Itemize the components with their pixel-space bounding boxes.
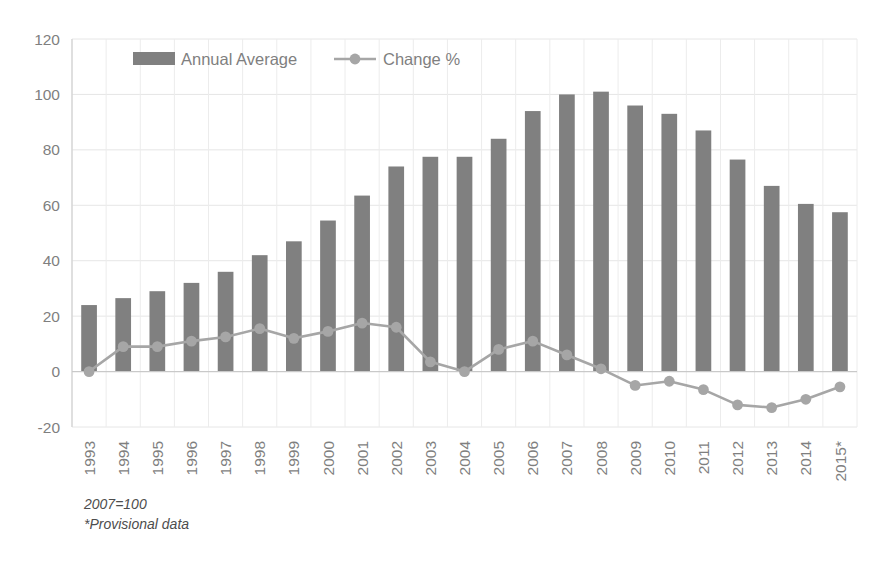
legend-marker-circle-icon bbox=[350, 54, 361, 65]
bar-1999 bbox=[286, 241, 302, 371]
y-axis-tick-label: 100 bbox=[34, 86, 60, 103]
y-axis-tick-label: 80 bbox=[43, 141, 61, 158]
data-point-2006 bbox=[527, 336, 538, 347]
x-axis-tick-labels: 1993199419951996199719981999200020012002… bbox=[81, 441, 849, 482]
data-point-2000 bbox=[323, 326, 334, 337]
x-axis-tick-label: 2009 bbox=[627, 441, 644, 475]
x-axis-tick-label: 1999 bbox=[285, 441, 302, 475]
legend-bar-swatch-icon bbox=[133, 52, 175, 65]
x-axis-tick-label: 2002 bbox=[388, 441, 405, 475]
x-axis-tick-label: 2006 bbox=[524, 441, 541, 475]
bar-2011 bbox=[696, 130, 712, 371]
data-point-1994 bbox=[118, 341, 129, 352]
x-axis-tick-label: 1997 bbox=[217, 441, 234, 475]
data-point-1998 bbox=[254, 323, 265, 334]
footnote-base-note: 2007=100 bbox=[83, 496, 147, 512]
y-axis-tick-label: 60 bbox=[43, 197, 61, 214]
x-axis-tick-label: 2010 bbox=[661, 441, 678, 476]
y-axis-tick-label: -20 bbox=[38, 419, 61, 436]
x-axis-tick-label: 1995 bbox=[149, 441, 166, 475]
x-axis-tick-label: 2005 bbox=[490, 441, 507, 475]
data-point-1996 bbox=[186, 336, 197, 347]
x-axis-tick-label: 1993 bbox=[81, 441, 98, 475]
bar-2006 bbox=[525, 111, 541, 372]
data-point-2015star bbox=[835, 381, 846, 392]
bar-1998 bbox=[252, 255, 268, 371]
bar-2003 bbox=[423, 157, 439, 372]
x-axis-tick-label: 1994 bbox=[115, 441, 132, 476]
chart-container: -20020406080100120 199319941995199619971… bbox=[0, 0, 896, 562]
bar-2010 bbox=[661, 114, 677, 372]
data-point-2009 bbox=[630, 380, 641, 391]
bar-2015star bbox=[832, 212, 848, 371]
x-axis-tick-label: 2004 bbox=[456, 441, 473, 476]
data-point-2004 bbox=[459, 366, 470, 377]
bar-2004 bbox=[457, 157, 473, 372]
data-point-2010 bbox=[664, 376, 675, 387]
bar-2012 bbox=[730, 160, 746, 372]
x-axis-tick-label: 2014 bbox=[797, 441, 814, 476]
data-point-2012 bbox=[732, 399, 743, 410]
x-axis-tick-label: 2000 bbox=[320, 441, 337, 476]
legend-label-annual-average: Annual Average bbox=[181, 50, 297, 68]
chart-background bbox=[0, 0, 896, 562]
bar-2005 bbox=[491, 139, 507, 372]
bar-2007 bbox=[559, 94, 575, 371]
bar-2014 bbox=[798, 204, 814, 372]
chart-canvas: -20020406080100120 199319941995199619971… bbox=[0, 0, 896, 562]
data-point-2013 bbox=[766, 402, 777, 413]
data-point-2001 bbox=[357, 318, 368, 329]
bar-2001 bbox=[354, 196, 370, 372]
data-point-2003 bbox=[425, 356, 436, 367]
data-point-2011 bbox=[698, 384, 709, 395]
x-axis-tick-label: 2013 bbox=[763, 441, 780, 475]
x-axis-tick-label: 2015* bbox=[832, 441, 849, 482]
bar-2002 bbox=[388, 166, 404, 371]
x-axis-tick-label: 2011 bbox=[695, 441, 712, 474]
data-point-1993 bbox=[84, 366, 95, 377]
bar-1993 bbox=[81, 305, 97, 372]
footnote-provisional-note: *Provisional data bbox=[84, 516, 189, 532]
y-axis-tick-label: 0 bbox=[51, 363, 60, 380]
y-axis-tick-label: 120 bbox=[34, 31, 60, 48]
bar-2009 bbox=[627, 106, 643, 372]
x-axis-tick-label: 1996 bbox=[183, 441, 200, 475]
data-point-1999 bbox=[288, 333, 299, 344]
bar-2000 bbox=[320, 221, 336, 372]
data-point-2008 bbox=[596, 363, 607, 374]
data-point-2014 bbox=[800, 394, 811, 405]
data-point-1997 bbox=[220, 332, 231, 343]
bar-2008 bbox=[593, 92, 609, 372]
x-axis-tick-label: 2008 bbox=[593, 441, 610, 475]
data-point-1995 bbox=[152, 341, 163, 352]
x-axis-tick-label: 2012 bbox=[729, 441, 746, 475]
bar-2013 bbox=[764, 186, 780, 372]
legend-label-change-percent: Change % bbox=[383, 50, 460, 68]
x-axis-tick-label: 2001 bbox=[354, 441, 371, 475]
bar-1996 bbox=[184, 283, 200, 372]
bar-1995 bbox=[149, 291, 165, 371]
x-axis-tick-label: 2007 bbox=[558, 441, 575, 475]
y-axis-tick-label: 20 bbox=[43, 308, 61, 325]
y-axis-tick-label: 40 bbox=[43, 252, 61, 269]
bar-1994 bbox=[115, 298, 131, 371]
chart-legend: Annual Average Change % bbox=[133, 50, 460, 68]
data-point-2002 bbox=[391, 322, 402, 333]
data-point-2007 bbox=[561, 350, 572, 361]
x-axis-tick-label: 1998 bbox=[251, 441, 268, 475]
x-axis-tick-label: 2003 bbox=[422, 441, 439, 475]
data-point-2005 bbox=[493, 344, 504, 355]
bar-1997 bbox=[218, 272, 234, 372]
